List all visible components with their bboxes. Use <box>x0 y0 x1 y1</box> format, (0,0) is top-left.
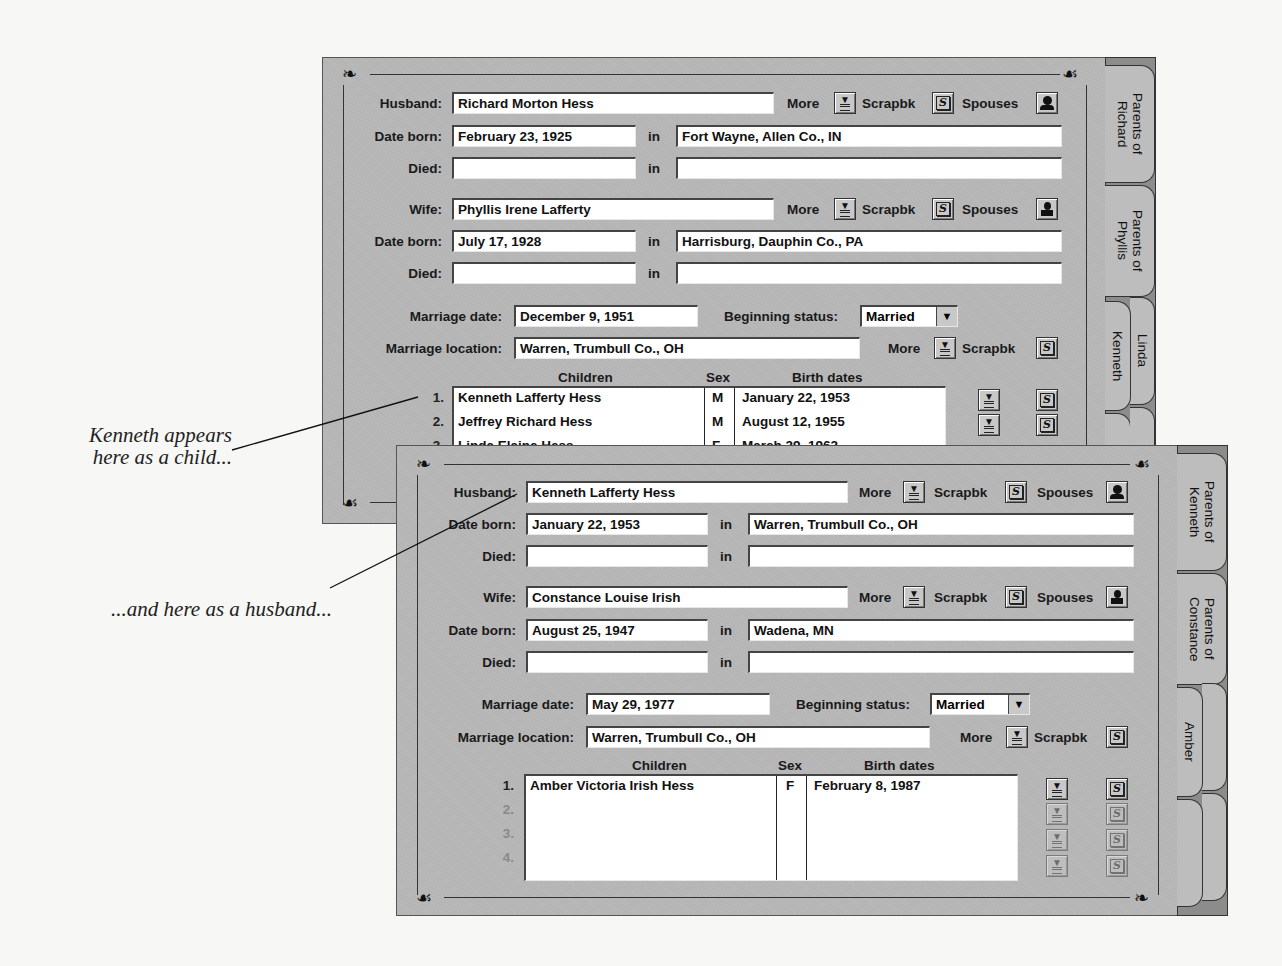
more-info-icon: ▼ <box>1052 806 1062 822</box>
child-2-scrapbook-button[interactable]: S <box>1106 803 1128 825</box>
marriage-location-field[interactable]: Warren, Trumbull Co., OH <box>514 337 860 359</box>
child-row[interactable]: Jeffrey Richard Hess M August 12, 1955 <box>454 412 945 436</box>
husband-died-date-field[interactable] <box>452 157 636 179</box>
scrapbook-icon: S <box>936 96 950 110</box>
wife-died-place-field[interactable] <box>676 262 1062 284</box>
in-label: in <box>720 549 732 565</box>
child-1-more-button[interactable]: ▼ <box>978 389 1000 411</box>
child-row-number: 4. <box>494 848 514 868</box>
marriage-date-field[interactable]: December 9, 1951 <box>514 305 698 327</box>
child-4-more-button[interactable]: ▼ <box>1046 855 1068 877</box>
marriage-more-button[interactable]: ▼ <box>934 337 956 359</box>
tab-empty[interactable] <box>1202 683 1227 791</box>
tab-label: Parents of Phyllis <box>1115 210 1145 272</box>
tab-empty[interactable] <box>1177 799 1203 907</box>
husband-name-field[interactable]: Richard Morton Hess <box>452 92 774 114</box>
tab-label: Parents of Constance <box>1187 597 1217 662</box>
child-4-scrapbook-button[interactable]: S <box>1106 855 1128 877</box>
more-label: More <box>787 202 819 218</box>
tab-empty[interactable] <box>1202 793 1227 901</box>
child-row[interactable]: Kenneth Lafferty Hess M January 22, 1953 <box>454 388 945 412</box>
wife-scrapbook-button[interactable]: S <box>1005 586 1027 608</box>
wife-more-button[interactable]: ▼ <box>834 198 856 220</box>
more-label: More <box>960 730 992 746</box>
beginning-status-select[interactable]: Married ▼ <box>860 305 958 327</box>
dropdown-arrow-icon[interactable]: ▼ <box>1008 695 1029 714</box>
husband-spouses-button[interactable] <box>1106 481 1128 503</box>
wife-name-field[interactable]: Constance Louise Irish <box>526 586 848 608</box>
husband-name-field[interactable]: Kenneth Lafferty Hess <box>526 481 848 503</box>
child-row[interactable] <box>526 800 1017 824</box>
frame-line-left <box>417 475 418 895</box>
wife-scrapbook-button[interactable]: S <box>932 198 954 220</box>
child-1-scrapbook-button[interactable]: S <box>1106 778 1128 800</box>
marriage-more-button[interactable]: ▼ <box>1006 726 1028 748</box>
tab-parents-of-richard[interactable]: Parents of Richard <box>1105 65 1155 183</box>
tab-parents-of-constance[interactable]: Parents of Constance <box>1177 573 1227 685</box>
in-label: in <box>648 129 660 145</box>
wife-born-place-field[interactable]: Harrisburg, Dauphin Co., PA <box>676 230 1062 252</box>
husband-more-button[interactable]: ▼ <box>834 92 856 114</box>
wife-born-date-field[interactable]: July 17, 1928 <box>452 230 636 252</box>
husband-born-place-field[interactable]: Fort Wayne, Allen Co., IN <box>676 125 1062 147</box>
child-row[interactable]: Amber Victoria Irish Hess F February 8, … <box>526 776 1017 800</box>
child-row-number: 3. <box>494 824 514 844</box>
in-label: in <box>648 161 660 177</box>
scrapbook-icon: S <box>1040 393 1054 407</box>
child-row[interactable] <box>526 848 1017 872</box>
marriage-scrapbook-button[interactable]: S <box>1036 337 1058 359</box>
wife-spouses-button[interactable] <box>1106 586 1128 608</box>
tab-label: Parents of Kenneth <box>1187 481 1217 543</box>
more-info-icon: ▼ <box>1052 832 1062 848</box>
flourish-ornament-icon: ☙ <box>416 889 432 907</box>
tab-amber[interactable]: Amber <box>1177 687 1203 797</box>
child-birth-date: February 8, 1987 <box>814 776 921 796</box>
husband-died-place-field[interactable] <box>676 157 1062 179</box>
husband-more-button[interactable]: ▼ <box>903 481 925 503</box>
child-2-more-button[interactable]: ▼ <box>978 414 1000 436</box>
tab-parents-of-kenneth[interactable]: Parents of Kenneth <box>1177 453 1227 571</box>
wife-more-button[interactable]: ▼ <box>903 586 925 608</box>
marriage-location-field[interactable]: Warren, Trumbull Co., OH <box>586 726 930 748</box>
tab-kenneth[interactable]: Kenneth <box>1105 301 1131 411</box>
dropdown-arrow-icon[interactable]: ▼ <box>936 307 957 326</box>
child-3-scrapbook-button[interactable]: S <box>1106 829 1128 851</box>
husband-scrapbook-button[interactable]: S <box>932 92 954 114</box>
marriage-date-label: Marriage date: <box>352 309 502 325</box>
tab-label: Kenneth <box>1110 331 1125 381</box>
scrapbook-icon: S <box>936 202 950 216</box>
marriage-scrapbook-button[interactable]: S <box>1106 726 1128 748</box>
wife-spouses-button[interactable] <box>1036 198 1058 220</box>
husband-scrapbook-button[interactable]: S <box>1005 481 1027 503</box>
husband-born-place-field[interactable]: Warren, Trumbull Co., OH <box>748 513 1134 535</box>
wife-born-date-field[interactable]: August 25, 1947 <box>526 619 708 641</box>
children-header: Children <box>558 370 613 386</box>
tab-parents-of-phyllis[interactable]: Parents of Phyllis <box>1105 185 1155 297</box>
husband-died-date-field[interactable] <box>526 545 708 567</box>
wife-name-field[interactable]: Phyllis Irene Lafferty <box>452 198 774 220</box>
wife-died-date-field[interactable] <box>452 262 636 284</box>
children-list[interactable]: Amber Victoria Irish Hess F February 8, … <box>524 774 1018 881</box>
more-info-icon: ▼ <box>1052 781 1062 797</box>
beginning-status-select[interactable]: Married ▼ <box>930 693 1030 715</box>
husband-died-place-field[interactable] <box>748 545 1134 567</box>
child-2-scrapbook-button[interactable]: S <box>1036 414 1058 436</box>
more-info-icon: ▼ <box>984 392 994 408</box>
child-1-more-button[interactable]: ▼ <box>1046 778 1068 800</box>
wife-died-place-field[interactable] <box>748 651 1134 673</box>
child-row[interactable] <box>526 824 1017 848</box>
child-2-more-button[interactable]: ▼ <box>1046 803 1068 825</box>
child-row-number: 2. <box>424 412 444 432</box>
husband-born-date-field[interactable]: January 22, 1953 <box>526 513 708 535</box>
husband-spouses-button[interactable] <box>1036 92 1058 114</box>
scrapbook-icon: S <box>1040 418 1054 432</box>
scrapbook-icon: S <box>1110 859 1124 873</box>
wife-died-date-field[interactable] <box>526 651 708 673</box>
child-1-scrapbook-button[interactable]: S <box>1036 389 1058 411</box>
tab-linda[interactable]: Linda <box>1130 297 1155 405</box>
wife-born-place-field[interactable]: Wadena, MN <box>748 619 1134 641</box>
frame-line-top <box>444 464 1130 465</box>
marriage-date-field[interactable]: May 29, 1977 <box>586 693 770 715</box>
child-3-more-button[interactable]: ▼ <box>1046 829 1068 851</box>
husband-born-date-field[interactable]: February 23, 1925 <box>452 125 636 147</box>
